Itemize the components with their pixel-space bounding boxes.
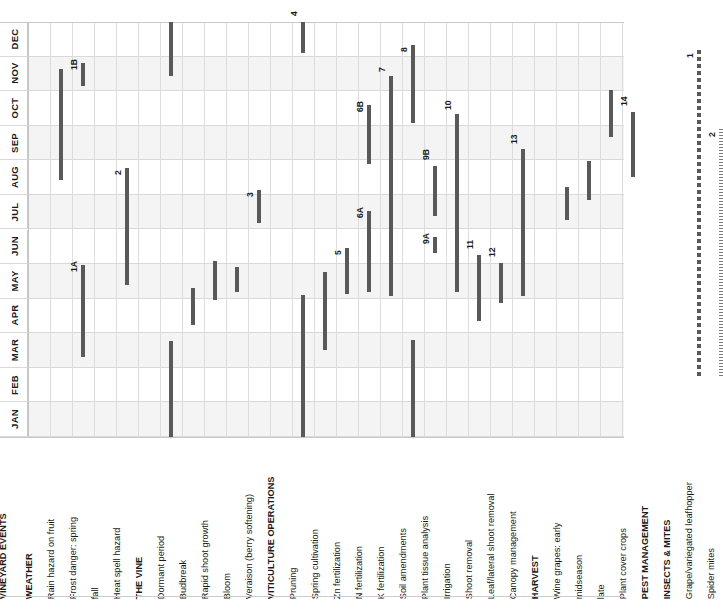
month-label-text: JUN: [8, 236, 19, 256]
bar-soil-amendments-wrap: [411, 340, 414, 437]
month-label-text: OCT: [8, 97, 19, 118]
bar-note-heat-spell-hazard: 2: [113, 170, 123, 175]
grid-vline-15: [358, 22, 359, 437]
grid-vline-27: [622, 22, 623, 437]
bar-bloom: [235, 267, 238, 292]
bar-pruning-wrap: [301, 295, 304, 437]
row-label-bloom: Bloom: [223, 429, 232, 599]
bar-note-plant-cover-crops: 14: [619, 96, 629, 106]
row-label-late: late: [597, 429, 606, 599]
month-label-jul: JUL: [0, 195, 28, 229]
grid-vline-7: [182, 22, 183, 437]
bar-n-fertilization-6b: [367, 105, 370, 164]
month-label-oct: OCT: [0, 91, 28, 125]
bar-note-frost-danger-fall: 1B: [69, 59, 79, 70]
bar-note-grape-variegated-leafhopper: 1: [685, 53, 695, 58]
row-label-vineyard-events: VINEYARD EVENTS: [0, 429, 8, 599]
row-label-grape-variegated-leafhopper: Grape/variegated leafhopper: [685, 429, 694, 599]
bar-veraison: [257, 190, 260, 223]
grid-vline-13: [314, 22, 315, 437]
grid-vline-4: [116, 22, 117, 437]
row-label-weather: WEATHER: [25, 429, 34, 599]
row-label-viticulture-operations: VITICULTURE OPERATIONS: [267, 429, 276, 599]
grid-vline-25: [578, 22, 579, 437]
row-label-rain-hazard-on-fruit: Rain hazard on fruit: [47, 429, 56, 599]
month-label-text: SEP: [8, 133, 19, 153]
grid-vline-24: [556, 22, 557, 437]
grid-vline-23: [534, 22, 535, 437]
bar-shoot-removal: [477, 255, 480, 321]
grid-vline-0: [28, 22, 29, 437]
bar-note-canopy-management: 13: [509, 134, 519, 144]
bar-note-zn-fertilization: 5: [333, 250, 343, 255]
grid-vline-2: [72, 22, 73, 437]
row-label-fall: fall: [91, 429, 100, 599]
bar-note-plant-tissue-analysis-9a: 9A: [421, 233, 431, 244]
month-label-may: MAY: [0, 264, 28, 298]
grid-vline-16: [380, 22, 381, 437]
row-label-heat-spell-hazard: Heat spell hazard: [113, 429, 122, 599]
grid-vline-22: [512, 22, 513, 437]
grid-vline-5: [138, 22, 139, 437]
bar-note-plant-tissue-analysis-9b: 9B: [421, 149, 431, 160]
row-label-harvest: HARVEST: [531, 429, 540, 599]
month-label-text: JUL: [8, 202, 19, 221]
row-label-wine-grapes-early: Wine grapes: early: [553, 429, 562, 599]
month-label-dec: DEC: [0, 22, 28, 56]
bar-plant-tissue-analysis-9a: [433, 237, 436, 253]
label-bottom-rule: [0, 596, 624, 597]
grid-vline-9: [226, 22, 227, 437]
row-label-spider-mites: Spider mites: [707, 429, 716, 599]
row-label-plant-tissue-analysis: Plant tissue analysis: [421, 429, 430, 599]
row-label-spring-cultivation: Spring cultivation: [311, 429, 320, 599]
bar-plant-cover-crops: [631, 112, 634, 177]
month-label-mar: MAR: [0, 333, 28, 367]
month-label-sep: SEP: [0, 126, 28, 160]
row-label-rapid-shoot-growth: Rapid shoot growth: [201, 429, 210, 599]
row-labels: VINEYARD EVENTSWEATHERRain hazard on fru…: [0, 437, 624, 612]
grid-vline-10: [248, 22, 249, 437]
bar-grape-variegated-leafhopper: [697, 50, 702, 378]
month-label-text: DEC: [8, 28, 19, 49]
bar-heat-spell-hazard: [125, 168, 128, 285]
bar-irrigation: [455, 114, 458, 292]
bar-k-fertilization: [389, 76, 392, 296]
row-label-n-fertilization: N fertilization: [355, 429, 364, 599]
grid-vline-1: [50, 22, 51, 437]
bar-spider-mites: [719, 129, 723, 378]
grid-vline-19: [446, 22, 447, 437]
row-label-canopy-management: Canopy management: [509, 429, 518, 599]
bar-note-shoot-removal: 11: [465, 240, 475, 249]
bar-wine-grapes-early: [565, 187, 568, 220]
bar-budbreak: [191, 288, 194, 325]
row-label-budbreak: Budbreak: [179, 429, 188, 599]
bar-frost-danger-fall: [81, 63, 84, 86]
row-label-k-fertilization: K fertilization: [377, 429, 386, 599]
row-label-pruning: Pruning: [289, 429, 298, 599]
bar-spring-cultivation: [323, 272, 326, 350]
grid-vline-11: [270, 22, 271, 437]
bar-note-k-fertilization: 7: [377, 67, 387, 72]
row-label-pest-management: PEST MANAGEMENT: [641, 429, 650, 599]
bar-pruning: [301, 22, 304, 53]
bar-n-fertilization-6a: [367, 211, 370, 292]
row-label-dormant-period: Dormant period: [157, 429, 166, 599]
bar-note-leaf-lateral-shoot-removal: 12: [487, 247, 497, 257]
row-label-plant-cover-crops: Plant cover crops: [619, 429, 628, 599]
row-label-midseason: midseason: [575, 429, 584, 599]
bar-soil-amendments: [411, 45, 414, 123]
row-label-frost-danger-spring: Frost danger: spring: [69, 429, 78, 599]
grid-vline-14: [336, 22, 337, 437]
row-label-shoot-removal: Shoot removal: [465, 429, 474, 599]
month-label-text: AUG: [8, 166, 19, 188]
month-label-feb: FEB: [0, 368, 28, 402]
month-label-text: MAR: [8, 339, 19, 362]
month-label-text: MAY: [8, 270, 19, 291]
row-label-irrigation: Irrigation: [443, 429, 452, 599]
grid-vline-6: [160, 22, 161, 437]
row-label-zn-fertilization: Zn fertilization: [333, 429, 342, 599]
row-label-the-vine: THE VINE: [135, 429, 144, 599]
bar-rain-hazard-on-fruit: [59, 69, 62, 180]
row-label-veraison-berry-softening: Veraison (berry softening): [245, 429, 254, 599]
grid-vline-21: [490, 22, 491, 437]
